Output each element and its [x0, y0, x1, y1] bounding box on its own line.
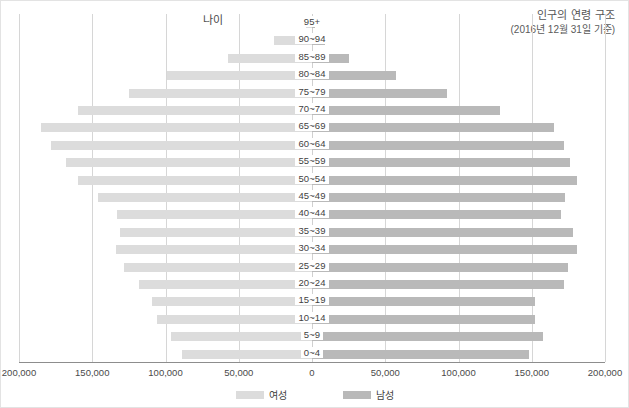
x-axis-tick-label: 50,000: [224, 367, 253, 378]
x-axis-tick-label: 0: [309, 367, 314, 378]
chart-row: 20~24: [19, 275, 605, 292]
chart-row: 65~69: [19, 118, 605, 135]
chart-row: 50~54: [19, 171, 605, 188]
bar-female: [117, 210, 312, 219]
x-axis-tick-label: 50,000: [371, 367, 400, 378]
bar-male: [312, 263, 568, 272]
bar-male: [312, 193, 565, 202]
bar-female: [51, 141, 312, 150]
legend-label-female: 여성: [269, 387, 287, 402]
bar-female: [66, 158, 312, 167]
bar-male: [312, 280, 564, 289]
bar-male: [312, 158, 570, 167]
legend-item-female: 여성: [236, 387, 287, 402]
chart-row: 95+: [19, 14, 605, 31]
bar-female: [139, 280, 312, 289]
bar-female: [182, 350, 312, 359]
chart-row: 80~84: [19, 66, 605, 83]
chart-row: 55~59: [19, 153, 605, 170]
x-axis-tick-label: 150,000: [75, 367, 109, 378]
bar-male: [312, 36, 325, 45]
bar-male: [312, 228, 573, 237]
chart-row: 30~34: [19, 240, 605, 257]
chart-row: 35~39: [19, 223, 605, 240]
legend-swatch-male: [343, 391, 371, 399]
legend-swatch-female: [236, 391, 264, 399]
chart-row: 60~64: [19, 136, 605, 153]
bar-male: [312, 141, 564, 150]
bar-male: [312, 297, 535, 306]
x-axis-tick-label: 100,000: [441, 367, 475, 378]
chart-legend: 여성 남성: [0, 387, 629, 402]
chart-row: 75~79: [19, 84, 605, 101]
chart-row: 70~74: [19, 101, 605, 118]
x-axis-tick-label: 100,000: [148, 367, 182, 378]
bar-female: [157, 315, 312, 324]
bar-female: [116, 245, 312, 254]
population-pyramid-chart: 인구의 연령 구조 (2016년 12월 31일 기준) 나이 95+90~94…: [0, 0, 629, 408]
plot-area: 95+90~9485~8980~8475~7970~7465~6960~6455…: [19, 14, 605, 362]
bar-female: [167, 71, 312, 80]
bar-male: [312, 332, 543, 341]
bar-male: [312, 89, 447, 98]
bar-female: [152, 297, 312, 306]
bar-male: [312, 315, 535, 324]
bar-female: [98, 193, 312, 202]
bar-female: [228, 54, 312, 63]
legend-label-male: 남성: [376, 387, 394, 402]
chart-row: 10~14: [19, 310, 605, 327]
bar-male: [312, 350, 529, 359]
bar-female: [129, 89, 312, 98]
bar-male: [312, 123, 554, 132]
chart-row: 15~19: [19, 292, 605, 309]
bar-male: [312, 176, 577, 185]
bar-female: [171, 332, 312, 341]
chart-row: 25~29: [19, 258, 605, 275]
bar-female: [120, 228, 312, 237]
bar-female: [78, 176, 312, 185]
chart-row: 45~49: [19, 188, 605, 205]
bar-male: [312, 106, 500, 115]
x-axis-tick-label: 150,000: [515, 367, 549, 378]
bar-male: [312, 19, 315, 28]
chart-row: 85~89: [19, 49, 605, 66]
bar-male: [312, 210, 561, 219]
bar-female: [78, 106, 312, 115]
x-axis-tick-label: 200,000: [588, 367, 622, 378]
bar-male: [312, 245, 577, 254]
bar-male: [312, 54, 349, 63]
x-axis-tick-label: 200,000: [2, 367, 36, 378]
chart-row: 0~4: [19, 345, 605, 362]
bar-female: [124, 263, 312, 272]
x-axis-line: [19, 362, 605, 363]
bar-male: [312, 71, 396, 80]
bar-female: [41, 123, 312, 132]
chart-row: 40~44: [19, 205, 605, 222]
gridline: [605, 14, 606, 362]
chart-row: 90~94: [19, 31, 605, 48]
bar-female: [274, 36, 312, 45]
chart-row: 5~9: [19, 327, 605, 344]
legend-item-male: 남성: [343, 387, 394, 402]
